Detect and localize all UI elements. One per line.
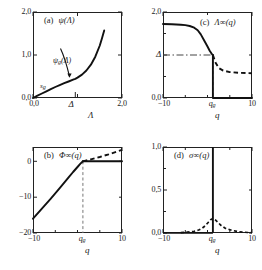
panel-b-ticks [33, 147, 122, 233]
figure-multipanel: (a) ψ(Λ) [0, 0, 262, 270]
panel-d-xtick-2: 10 [240, 234, 262, 243]
panel-c-ytick-delta: Δ [136, 49, 161, 59]
panel-d-plot [163, 147, 252, 233]
panel-a-ticks [33, 12, 122, 98]
panel-c-plot [163, 12, 252, 98]
panel-c-curve-zero [213, 55, 252, 98]
panel-b-curve-stable [33, 161, 83, 218]
panel-d-ticks [163, 147, 252, 233]
panel-a-xaxis-label: Λ [88, 110, 93, 120]
panel-a-ytick-1: 1,0 [6, 50, 31, 59]
panel-a-xtick-0: 0,0 [22, 99, 46, 108]
panel-b-xtick-0: −10 [22, 234, 46, 243]
panel-a-annotation-sg: sg [40, 82, 46, 90]
panel-c-ytick-2: 2,0 [136, 7, 161, 16]
panel-b-ytick-1: −10 [3, 192, 31, 201]
panel-b-curve-unstable [83, 150, 122, 161]
panel-a-xtick-2: 2,0 [110, 99, 134, 108]
panel-c-xtick-0: −10 [152, 99, 176, 108]
panel-a-plot [33, 12, 122, 98]
panel-c-curve-unstable [213, 55, 252, 73]
panel-a-annotation-psig: ψg(Λ) [53, 56, 71, 65]
panel-d-xaxis-label: q [215, 245, 220, 255]
panel-a-xtick-delta: Δ [64, 99, 78, 109]
panel-d-xtick-0: −10 [152, 234, 176, 243]
panel-c-xtick-2: 10 [240, 99, 262, 108]
panel-b-xtick-2: 10 [110, 234, 134, 243]
panel-b-plot [33, 147, 122, 233]
panel-b-ytick-2: 0 [3, 157, 31, 166]
panel-b-xaxis-label: q [85, 245, 90, 255]
panel-c-xaxis-label: q [215, 110, 220, 120]
panel-a-ytick-2: 2,0 [6, 7, 31, 16]
panel-b-xtick-qg: qg [73, 234, 91, 243]
panel-c-xtick-qg: qg [203, 99, 221, 108]
panel-a-annotation-arrowhead [67, 73, 71, 77]
panel-d-xtick-qg: qg [203, 234, 221, 243]
panel-d-ytick-2: 1,0 [136, 142, 161, 151]
panel-d-ytick-1: 0,5 [136, 185, 161, 194]
panel-d-curve-bump [181, 218, 252, 232]
panel-c-curve-stable [163, 24, 213, 55]
